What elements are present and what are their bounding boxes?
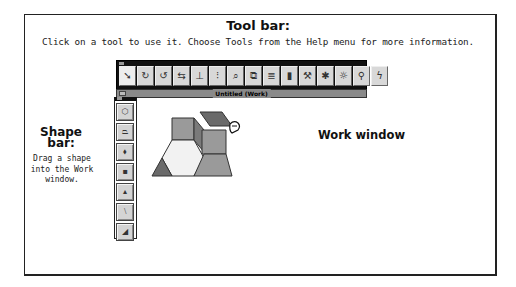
- triangle-shape-button[interactable]: ▴: [116, 183, 134, 201]
- magnify-tool-icon: ⌕: [233, 71, 239, 81]
- diagram-frame: [24, 14, 497, 276]
- parallelogram-shape-button[interactable]: ◢: [116, 223, 134, 241]
- rotate-right-tool-icon: ↻: [141, 71, 149, 81]
- pattern-blocks-illustration: [150, 110, 245, 180]
- triangle-shape-icon: ▴: [123, 188, 127, 196]
- toolbar-close-box[interactable]: [119, 62, 124, 65]
- sun-tool-button[interactable]: ☼: [335, 66, 352, 86]
- toolbar-window: ➘↻↺⇆⊥⁝⌕⧉≣▮⚒✱☼⚲ϟ: [116, 60, 367, 90]
- thin-rhombus-shape-icon: ⧵: [124, 208, 127, 216]
- lightning-tool-icon: ϟ: [376, 71, 383, 81]
- glue-tool-button[interactable]: ⁝: [209, 66, 226, 86]
- diamond-shape-icon: ⬧: [123, 148, 127, 156]
- sparkle-tool-button[interactable]: ✱: [317, 66, 334, 86]
- shapebar-close-box[interactable]: [117, 97, 122, 100]
- trash-tool-button[interactable]: ▮: [281, 66, 298, 86]
- flip-tool-button[interactable]: ⇆: [173, 66, 190, 86]
- arrow-tool-button[interactable]: ➘: [119, 66, 136, 86]
- hammer-tool-button[interactable]: ⚒: [299, 66, 316, 86]
- diamond-shape-button[interactable]: ⬧: [116, 143, 134, 161]
- figure-tool-icon: ⚲: [358, 71, 365, 81]
- rotate-left-tool-button[interactable]: ↺: [155, 66, 172, 86]
- rotate-left-tool-icon: ↺: [159, 71, 167, 81]
- sun-tool-icon: ☼: [339, 71, 348, 81]
- toolbar-callout-title: Tool bar:: [0, 18, 516, 33]
- slide-tool-button[interactable]: ⊥: [191, 66, 208, 86]
- hexagon-shape-icon: ⬡: [122, 108, 129, 116]
- shapebar-window: ⬡⏢⬧▪▴⧵◢: [114, 97, 137, 239]
- glue-tool-icon: ⁝: [216, 71, 219, 81]
- magnify-tool-button[interactable]: ⌕: [227, 66, 244, 86]
- work-window-title-bar[interactable]: Untitled (Work): [116, 89, 367, 98]
- shapebar-callout-description: Drag a shape into the Work window.: [28, 154, 96, 186]
- copy-tool-button[interactable]: ⧉: [245, 66, 262, 86]
- figure-tool-button[interactable]: ⚲: [353, 66, 370, 86]
- ruler-tool-icon: ≣: [267, 71, 275, 81]
- slide-tool-icon: ⊥: [195, 71, 204, 81]
- work-window-close-box[interactable]: [119, 91, 126, 96]
- trash-tool-icon: ▮: [287, 71, 293, 81]
- work-window-title: Untitled (Work): [212, 89, 270, 98]
- tool-list: ➘↻↺⇆⊥⁝⌕⧉≣▮⚒✱☼⚲ϟ: [119, 66, 388, 86]
- square-shape-icon: ▪: [122, 168, 127, 176]
- square-block-right[interactable]: [202, 130, 226, 154]
- shape-list: ⬡⏢⬧▪▴⧵◢: [116, 103, 134, 241]
- trapezoid-shape-icon: ⏢: [122, 128, 128, 136]
- work-window-label: Work window: [318, 128, 405, 142]
- sparkle-tool-icon: ✱: [321, 71, 329, 81]
- hexagon-shape-button[interactable]: ⬡: [116, 103, 134, 121]
- hammer-tool-icon: ⚒: [303, 71, 312, 81]
- square-shape-button[interactable]: ▪: [116, 163, 134, 181]
- arrow-tool-icon: ➘: [123, 71, 131, 81]
- hand-cursor-icon: [230, 122, 240, 133]
- thin-rhombus-shape-button[interactable]: ⧵: [116, 203, 134, 221]
- square-block-top[interactable]: [172, 118, 194, 140]
- parallelogram-shape-icon: ◢: [122, 228, 128, 236]
- ruler-tool-button[interactable]: ≣: [263, 66, 280, 86]
- shapebar-callout-title: Shape bar:: [36, 127, 86, 149]
- toolbar-callout-description: Click on a tool to use it. Choose Tools …: [0, 36, 516, 47]
- rotate-right-tool-button[interactable]: ↻: [137, 66, 154, 86]
- flip-tool-icon: ⇆: [177, 71, 185, 81]
- parallelogram-block-dragged[interactable]: [200, 112, 232, 126]
- trapezoid-shape-button[interactable]: ⏢: [116, 123, 134, 141]
- lightning-tool-button[interactable]: ϟ: [371, 66, 388, 86]
- copy-tool-icon: ⧉: [250, 71, 257, 81]
